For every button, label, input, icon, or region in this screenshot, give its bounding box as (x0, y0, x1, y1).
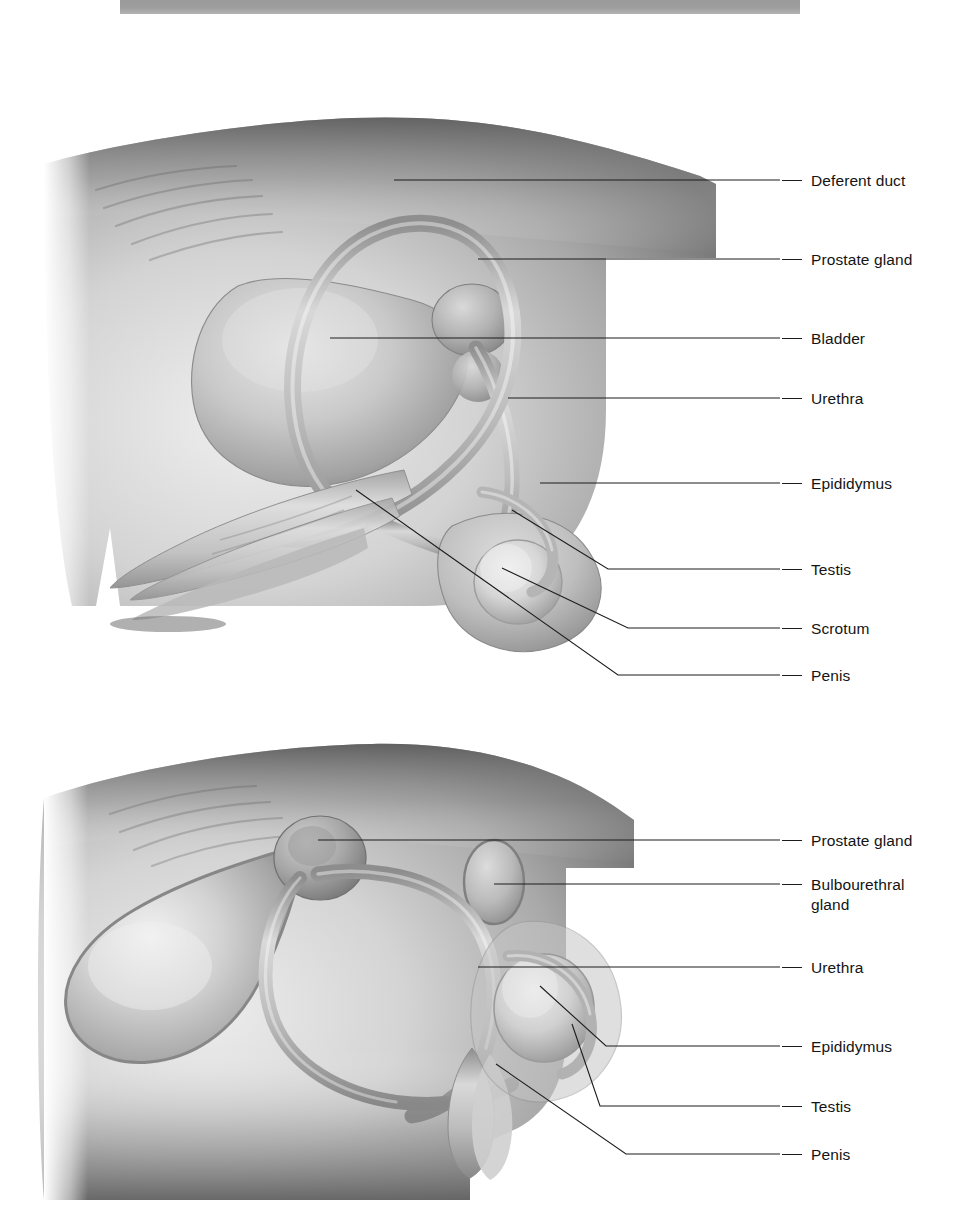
leader-tick-icon (782, 398, 802, 399)
label-text: Urethra (811, 958, 863, 978)
label-text: Testis (811, 1097, 851, 1117)
leader-tick-icon (782, 675, 802, 676)
label-text: Prostate gland (811, 250, 912, 270)
label-text: Scrotum (811, 619, 869, 639)
diagram-page: Deferent duct Prostate gland Bladder Ure… (0, 0, 960, 1210)
leader-tick-icon (782, 967, 802, 968)
label-text: Penis (811, 666, 850, 686)
figure-upper (0, 58, 780, 618)
leader-tick-icon (782, 1154, 802, 1155)
leader-tick-icon (782, 180, 802, 181)
label-penis: Penis (782, 666, 850, 686)
leader-tick-icon (782, 483, 802, 484)
leader-tick-icon (782, 884, 802, 885)
label-text: Deferent duct (811, 171, 905, 191)
leader-tick-icon (782, 569, 802, 570)
label-text: Prostate gland (811, 831, 912, 851)
leader-tick-icon (782, 1106, 802, 1107)
label-text: Penis (811, 1145, 850, 1165)
leader-tick-icon (782, 840, 802, 841)
leader-tick-icon (782, 259, 802, 260)
label-text: Epididymus (811, 1037, 892, 1057)
leader-tick-icon (782, 1046, 802, 1047)
label-epididymus: Epididymus (782, 1037, 892, 1057)
label-text: Urethra (811, 389, 863, 409)
label-bladder: Bladder (782, 329, 865, 349)
figure-lower (0, 718, 780, 1200)
label-text: Bladder (811, 329, 865, 349)
label-testis: Testis (782, 1097, 851, 1117)
leader-tick-icon (782, 628, 802, 629)
scan-header-band (120, 0, 800, 14)
label-scrotum: Scrotum (782, 619, 869, 639)
label-deferent-duct: Deferent duct (782, 171, 905, 191)
leader-tick-icon (782, 338, 802, 339)
label-penis: Penis (782, 1145, 850, 1165)
label-urethra: Urethra (782, 389, 863, 409)
label-prostate-gland: Prostate gland (782, 831, 912, 851)
label-testis: Testis (782, 560, 851, 580)
label-epididymus: Epididymus (782, 474, 892, 494)
label-text: Epididymus (811, 474, 892, 494)
label-text: Testis (811, 560, 851, 580)
label-text: Bulbourethral gland (811, 875, 905, 916)
label-prostate-gland: Prostate gland (782, 250, 912, 270)
label-urethra: Urethra (782, 958, 863, 978)
label-bulbourethral-gland: Bulbourethral gland (782, 875, 905, 916)
